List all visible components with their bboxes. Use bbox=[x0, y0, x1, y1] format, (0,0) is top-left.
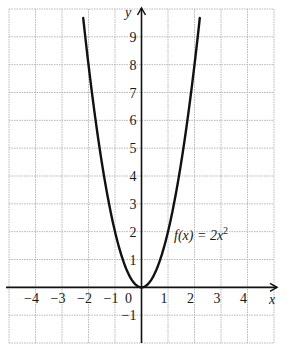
y-tick-label: 8 bbox=[130, 58, 137, 73]
function-graph: −4−3−2−101234 −1123456789 x y f(x) = 2x2 bbox=[0, 0, 291, 347]
x-tick-label: 2 bbox=[187, 291, 194, 306]
y-tick-label: −1 bbox=[122, 308, 137, 323]
y-tick-label: 9 bbox=[130, 30, 137, 45]
y-tick-label: 7 bbox=[130, 86, 137, 101]
y-tick-label: 3 bbox=[130, 197, 137, 212]
x-tick-label: 1 bbox=[161, 291, 168, 306]
y-tick-label: 5 bbox=[130, 141, 137, 156]
x-tick-label: 3 bbox=[214, 291, 221, 306]
y-tick-label: 4 bbox=[130, 169, 137, 184]
y-axis-label: y bbox=[123, 5, 132, 20]
function-name: f(x) = 2x bbox=[174, 228, 224, 244]
x-tick-label: 0 bbox=[125, 291, 132, 306]
y-tick-label: 2 bbox=[130, 225, 137, 240]
x-tick-label: 4 bbox=[240, 291, 247, 306]
x-axis-label: x bbox=[268, 292, 276, 307]
y-tick-labels: −1123456789 bbox=[122, 30, 137, 323]
x-tick-labels: −4−3−2−101234 bbox=[24, 291, 247, 306]
x-tick-label: −4 bbox=[24, 291, 39, 306]
x-tick-label: −1 bbox=[104, 291, 119, 306]
y-tick-label: 1 bbox=[130, 253, 137, 268]
function-exponent: 2 bbox=[223, 225, 228, 236]
function-label: f(x) = 2x2 bbox=[174, 225, 228, 244]
x-tick-label: −3 bbox=[51, 291, 66, 306]
y-tick-label: 6 bbox=[130, 113, 137, 128]
x-tick-label: −2 bbox=[77, 291, 92, 306]
